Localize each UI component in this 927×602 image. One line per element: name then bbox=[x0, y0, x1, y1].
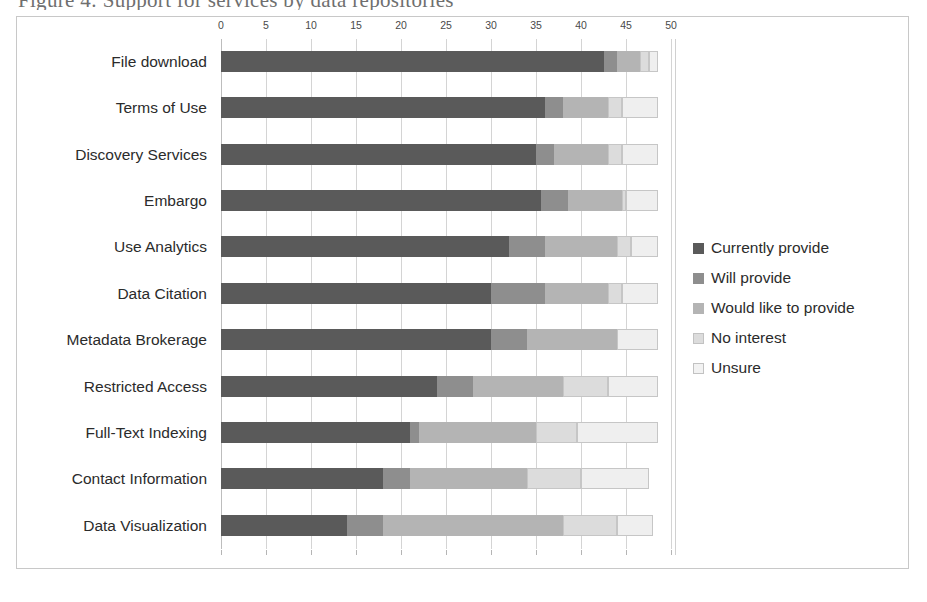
bar-segment bbox=[563, 97, 608, 118]
bar-segment bbox=[622, 283, 658, 304]
stacked-bar bbox=[221, 283, 658, 304]
x-tick-mark-5 bbox=[266, 550, 267, 555]
chart-row: Use Analytics bbox=[221, 224, 671, 270]
x-tick-label-0: 0 bbox=[218, 19, 224, 31]
bar-segment bbox=[608, 283, 622, 304]
legend-item[interactable]: Will provide bbox=[693, 263, 898, 293]
bar-segment bbox=[527, 329, 617, 350]
bar-segment bbox=[563, 376, 608, 397]
x-tick-mark-25 bbox=[446, 550, 447, 555]
category-label: Data Citation bbox=[117, 283, 207, 304]
bar-segment bbox=[622, 97, 658, 118]
chart-row: Embargo bbox=[221, 178, 671, 224]
x-tick-label-45: 45 bbox=[620, 19, 632, 31]
x-tick-label-35: 35 bbox=[530, 19, 542, 31]
chart-row: Metadata Brokerage bbox=[221, 317, 671, 363]
bar-segment bbox=[568, 190, 622, 211]
stacked-bar bbox=[221, 376, 658, 397]
bar-segment bbox=[563, 515, 617, 536]
bar-segment bbox=[383, 468, 410, 489]
stacked-bar bbox=[221, 144, 658, 165]
clipped-heading: Figure 4: Support for services by data r… bbox=[18, 0, 454, 10]
legend-swatch-icon bbox=[693, 273, 704, 284]
bar-segment bbox=[622, 144, 658, 165]
category-label: Discovery Services bbox=[75, 144, 207, 165]
x-tick-mark-45 bbox=[626, 550, 627, 555]
bar-segment bbox=[536, 422, 577, 443]
bar-segment bbox=[221, 329, 491, 350]
category-label: Full-Text Indexing bbox=[86, 422, 207, 443]
category-label: Restricted Access bbox=[84, 376, 207, 397]
x-tick-mark-20 bbox=[401, 550, 402, 555]
x-tick-label-40: 40 bbox=[575, 19, 587, 31]
x-tick-mark-15 bbox=[356, 550, 357, 555]
plot-area: 05101520253035404550File downloadTerms o… bbox=[221, 39, 671, 549]
bar-segment bbox=[221, 190, 541, 211]
bar-segment bbox=[221, 468, 383, 489]
bar-segment bbox=[554, 144, 608, 165]
bar-segment bbox=[383, 515, 563, 536]
bar-segment bbox=[509, 236, 545, 257]
chart-row: Restricted Access bbox=[221, 364, 671, 410]
legend-swatch-icon bbox=[693, 243, 704, 254]
legend-item[interactable]: Unsure bbox=[693, 353, 898, 383]
category-label: Data Visualization bbox=[83, 515, 207, 536]
stacked-bar bbox=[221, 236, 658, 257]
bar-segment bbox=[545, 236, 617, 257]
legend-swatch-icon bbox=[693, 303, 704, 314]
chart-row: Data Citation bbox=[221, 271, 671, 317]
chart-row: File download bbox=[221, 39, 671, 85]
bar-segment bbox=[617, 236, 631, 257]
bar-segment bbox=[640, 51, 649, 72]
x-tick-mark-35 bbox=[536, 550, 537, 555]
stacked-bar bbox=[221, 468, 649, 489]
legend-swatch-icon bbox=[693, 333, 704, 344]
stacked-bar bbox=[221, 422, 658, 443]
x-tick-mark-50 bbox=[671, 550, 672, 555]
chart-row: Discovery Services bbox=[221, 132, 671, 178]
bar-segment bbox=[577, 422, 658, 443]
bar-segment bbox=[604, 51, 618, 72]
legend-item[interactable]: Currently provide bbox=[693, 233, 898, 263]
bar-segment bbox=[626, 190, 658, 211]
legend-label: Will provide bbox=[711, 269, 791, 287]
stacked-bar bbox=[221, 190, 658, 211]
bar-segment bbox=[617, 515, 653, 536]
bar-segment bbox=[221, 144, 536, 165]
bar-segment bbox=[221, 236, 509, 257]
category-label: Use Analytics bbox=[114, 236, 207, 257]
bar-segment bbox=[617, 51, 640, 72]
bar-segment bbox=[608, 97, 622, 118]
category-label: Terms of Use bbox=[116, 97, 207, 118]
category-label: File download bbox=[111, 51, 207, 72]
x-tick-label-10: 10 bbox=[305, 19, 317, 31]
chart-row: Full-Text Indexing bbox=[221, 410, 671, 456]
figure-frame: 05101520253035404550File downloadTerms o… bbox=[16, 16, 909, 569]
x-tick-label-50: 50 bbox=[665, 19, 677, 31]
legend-label: Currently provide bbox=[711, 239, 829, 257]
bar-segment bbox=[491, 283, 545, 304]
bar-segment bbox=[410, 422, 419, 443]
x-tick-label-30: 30 bbox=[485, 19, 497, 31]
category-label: Embargo bbox=[144, 190, 207, 211]
bar-segment bbox=[581, 468, 649, 489]
x-tick-label-5: 5 bbox=[263, 19, 269, 31]
bar-segment bbox=[541, 190, 568, 211]
legend-label: Unsure bbox=[711, 359, 761, 377]
plot-right-rule bbox=[675, 39, 676, 555]
bar-segment bbox=[545, 283, 608, 304]
bar-segment bbox=[608, 144, 622, 165]
bar-segment bbox=[437, 376, 473, 397]
stacked-bar bbox=[221, 51, 658, 72]
bar-segment bbox=[631, 236, 658, 257]
bar-segment bbox=[545, 97, 563, 118]
legend-label: Would like to provide bbox=[711, 299, 855, 317]
bar-segment bbox=[536, 144, 554, 165]
bar-segment bbox=[473, 376, 563, 397]
x-tick-label-25: 25 bbox=[440, 19, 452, 31]
bar-segment bbox=[221, 97, 545, 118]
legend-item[interactable]: Would like to provide bbox=[693, 293, 898, 323]
legend-item[interactable]: No interest bbox=[693, 323, 898, 353]
bar-segment bbox=[347, 515, 383, 536]
legend-label: No interest bbox=[711, 329, 786, 347]
